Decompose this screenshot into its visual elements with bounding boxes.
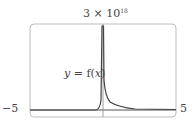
y-max-label: 3 × 1018 (83, 5, 128, 19)
x-min-label: −5 (2, 103, 18, 114)
function-annotation: y = f(x) (64, 68, 105, 79)
x-max-label: 5 (180, 103, 187, 114)
